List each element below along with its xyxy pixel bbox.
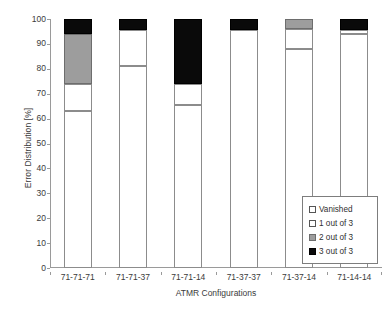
bar-segment-1-out-of-3[interactable] <box>340 30 368 34</box>
y-axis-tick-label: 60 <box>18 114 46 123</box>
y-axis-tick-label: 40 <box>18 164 46 173</box>
x-axis-tick-mark <box>216 272 217 275</box>
y-axis-tick-labels: 1009080706050403020100 <box>18 19 46 268</box>
y-axis-tick-mark <box>47 19 50 20</box>
bar-segment-3-out-of-3[interactable] <box>64 19 92 34</box>
bar-group[interactable] <box>64 19 92 268</box>
chart-legend: Vanished1 out of 32 out of 33 out of 3 <box>302 196 378 264</box>
stacked-bar[interactable] <box>64 19 92 268</box>
x-axis-tick-mark <box>105 272 106 275</box>
bar-segment-vanished[interactable] <box>174 105 202 268</box>
legend-item[interactable]: 1 out of 3 <box>309 216 372 230</box>
x-axis-tick-mark <box>271 272 272 275</box>
y-axis-tick-label: 100 <box>18 15 46 24</box>
y-axis-tick-label: 20 <box>18 214 46 223</box>
bar-segment-1-out-of-3[interactable] <box>174 84 202 105</box>
y-axis-tick-mark <box>47 218 50 219</box>
x-axis-tick-mark <box>50 272 51 275</box>
legend-item-label: Vanished <box>319 205 353 214</box>
y-axis-tick-label: 30 <box>18 189 46 198</box>
y-axis-tick-mark <box>47 44 50 45</box>
stacked-bar[interactable] <box>174 19 202 268</box>
bar-segment-3-out-of-3[interactable] <box>230 19 258 30</box>
legend-item[interactable]: 3 out of 3 <box>309 244 372 258</box>
bar-group[interactable] <box>174 19 202 268</box>
y-axis-tick-mark <box>47 119 50 120</box>
bar-segment-vanished[interactable] <box>230 30 258 268</box>
y-axis-tick-mark <box>47 94 50 95</box>
legend-item-label: 2 out of 3 <box>319 233 353 242</box>
y-axis-tick-label: 70 <box>18 89 46 98</box>
y-axis-tick-label: 80 <box>18 64 46 73</box>
x-axis-tick-label: 71-14-14 <box>314 272 388 283</box>
bar-segment-1-out-of-3[interactable] <box>285 29 313 49</box>
legend-item-label: 3 out of 3 <box>319 247 353 256</box>
stacked-bar[interactable] <box>230 19 258 268</box>
y-axis-tick-label: 50 <box>18 139 46 148</box>
y-axis-tick-mark <box>47 193 50 194</box>
bar-group[interactable] <box>119 19 147 268</box>
y-axis-tick-mark <box>47 69 50 70</box>
y-axis-tick-mark <box>47 144 50 145</box>
bar-segment-2-out-of-3[interactable] <box>285 19 313 29</box>
x-axis-tick-mark <box>327 272 328 275</box>
y-axis-tick-mark <box>47 243 50 244</box>
bar-segment-3-out-of-3[interactable] <box>119 19 147 30</box>
y-axis-tick-mark <box>47 268 50 269</box>
stacked-bar-chart: Error Distribution [%] 10090807060504030… <box>0 0 388 315</box>
bar-segment-3-out-of-3[interactable] <box>340 19 368 30</box>
legend-swatch-icon <box>309 234 316 241</box>
legend-item[interactable]: Vanished <box>309 202 372 216</box>
stacked-bar[interactable] <box>119 19 147 268</box>
legend-item-label: 1 out of 3 <box>319 219 353 228</box>
bar-segment-1-out-of-3[interactable] <box>119 30 147 66</box>
bar-segment-vanished[interactable] <box>64 111 92 268</box>
bar-segment-1-out-of-3[interactable] <box>64 84 92 111</box>
x-axis-title: ATMR Configurations <box>50 288 382 298</box>
legend-swatch-icon <box>309 206 316 213</box>
bar-segment-2-out-of-3[interactable] <box>64 34 92 84</box>
x-axis-tick-labels: 71-71-7171-71-3771-71-1471-37-3771-37-14… <box>50 272 382 286</box>
x-axis-tick-mark <box>381 272 382 275</box>
legend-swatch-icon <box>309 220 316 227</box>
bar-segment-3-out-of-3[interactable] <box>174 19 202 84</box>
legend-swatch-icon <box>309 248 316 255</box>
y-axis-tick-mark <box>47 168 50 169</box>
y-axis-tick-label: 10 <box>18 239 46 248</box>
legend-item[interactable]: 2 out of 3 <box>309 230 372 244</box>
bar-segment-vanished[interactable] <box>119 66 147 268</box>
bar-group[interactable] <box>230 19 258 268</box>
x-axis-tick-mark <box>161 272 162 275</box>
y-axis-tick-label: 90 <box>18 39 46 48</box>
